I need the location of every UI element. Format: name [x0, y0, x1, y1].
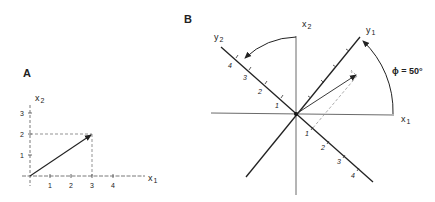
- y2-axis-label-b: y2: [214, 32, 224, 43]
- x-ticks-a: [50, 174, 113, 178]
- rotation-arc-y2: [245, 37, 296, 58]
- x-tick-1: 1: [48, 182, 52, 189]
- y2-tick-4: 4: [228, 62, 232, 69]
- proj-y2: [312, 76, 357, 129]
- rotation-arc-y1: [363, 41, 393, 114]
- x2-axis-label-b: x2: [302, 19, 312, 30]
- angle-label: ϕ = 50°: [392, 66, 423, 76]
- panel-b: B 1 2 3 4: [184, 13, 423, 195]
- y1-ticks: [308, 49, 349, 98]
- diagram-canvas: A 1 2 3 4 1 2 3 x2 x1: [0, 0, 435, 202]
- y2-tick-2: 2: [257, 88, 262, 95]
- x-tick-3: 3: [90, 182, 94, 189]
- x-tick-2: 2: [69, 182, 73, 189]
- y2-neg-tick-1: 1: [305, 130, 309, 137]
- y1-axis-label-b: y1: [366, 25, 376, 36]
- panel-b-label: B: [184, 13, 192, 25]
- y-tick-1: 1: [20, 152, 24, 159]
- panel-a-label: A: [23, 67, 31, 79]
- y2-tick-3: 3: [243, 74, 247, 81]
- y-tick-2: 2: [20, 131, 24, 138]
- x2-axis-label-a: x2: [35, 93, 45, 104]
- x1-axis-b: [211, 113, 394, 115]
- y2-neg-tick-3: 3: [337, 158, 341, 165]
- y2-neg-tick-4: 4: [351, 172, 355, 179]
- panel-a: A 1 2 3 4 1 2 3 x2 x1: [20, 67, 158, 189]
- vector-arrow-b: [296, 75, 356, 114]
- x-tick-4: 4: [111, 182, 115, 189]
- y-tick-3: 3: [20, 110, 24, 117]
- vector-arrow-a: [30, 135, 91, 176]
- y2-tick-1: 1: [275, 102, 279, 109]
- x1-axis-label-a: x1: [148, 173, 158, 184]
- x1-axis-label-b: x1: [401, 114, 411, 125]
- y2-neg-tick-2: 2: [320, 144, 325, 151]
